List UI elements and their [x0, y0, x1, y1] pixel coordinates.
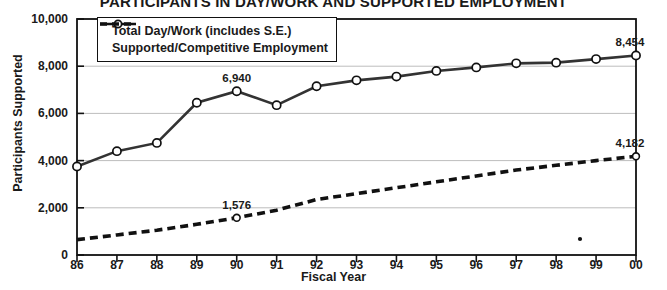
footnote-asterisk-icon	[578, 237, 582, 241]
series-supported-competitive-employment	[77, 153, 639, 240]
legend-label-total-day-work: Total Day/Work (includes S.E.)	[112, 24, 291, 38]
y-tick-label: 10,000	[8, 12, 68, 26]
legend-dashed-line-icon	[98, 18, 138, 30]
x-tick-label: 00	[616, 258, 656, 272]
data-point-label: 8,454	[616, 36, 645, 48]
y-axis-ticks	[77, 19, 84, 255]
y-tick-label: 6,000	[8, 106, 68, 120]
legend-item-total-day-work: Total Day/Work (includes S.E.)	[105, 22, 328, 39]
x-tick-label: 98	[536, 258, 576, 272]
y-tick-label: 2,000	[8, 201, 68, 215]
x-tick-label: 87	[97, 258, 137, 272]
x-tick-label: 99	[576, 258, 616, 272]
x-tick-label: 90	[217, 258, 257, 272]
legend-item-supported-competitive: Supported/Competitive Employment	[105, 39, 328, 56]
data-point-label: 4,182	[616, 137, 645, 149]
x-tick-label: 97	[496, 258, 536, 272]
x-tick-label: 86	[57, 258, 97, 272]
x-tick-label: 94	[376, 258, 416, 272]
x-tick-label: 89	[177, 258, 217, 272]
x-tick-label: 96	[456, 258, 496, 272]
chart-container: PARTICIPANTS IN DAY/WORK AND SUPPORTED E…	[0, 0, 667, 290]
data-point-label: 6,940	[222, 72, 251, 84]
data-point-label: 1,576	[222, 199, 251, 211]
x-tick-label: 93	[337, 258, 377, 272]
legend-label-supported-competitive: Supported/Competitive Employment	[112, 41, 328, 55]
chart-legend: Total Day/Work (includes S.E.) Supported…	[97, 17, 337, 62]
x-tick-label: 95	[416, 258, 456, 272]
x-tick-label: 88	[137, 258, 177, 272]
y-tick-label: 4,000	[8, 154, 68, 168]
gridlines	[77, 66, 636, 208]
y-tick-label: 8,000	[8, 59, 68, 73]
series-total-day-work	[73, 51, 640, 170]
x-tick-label: 91	[257, 258, 297, 272]
x-tick-label: 92	[297, 258, 337, 272]
